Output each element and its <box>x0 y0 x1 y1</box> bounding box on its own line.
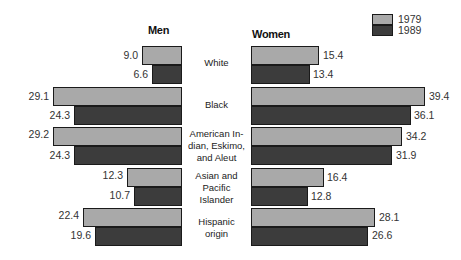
value-men-white-1979: 9.0 <box>123 46 138 65</box>
category-label-hispanic: Hispanicorigin <box>182 216 251 240</box>
bar-men-hispanic-1989 <box>95 227 182 246</box>
value-men-american-indian-1979: 29.2 <box>29 125 49 144</box>
value-men-black-1989: 24.3 <box>50 106 70 125</box>
women-header: Women <box>252 28 290 40</box>
legend-swatch-1979 <box>372 14 393 25</box>
bar-women-black-1979 <box>251 87 425 106</box>
category-label-asian: Asian andPacificIslander <box>182 170 251 206</box>
value-women-american-indian-1989: 31.9 <box>396 146 416 165</box>
value-women-white-1979: 15.4 <box>323 46 343 65</box>
value-men-asian-1979: 12.3 <box>103 166 123 185</box>
bar-men-hispanic-1979 <box>83 208 182 227</box>
value-women-hispanic-1979: 28.1 <box>379 208 399 227</box>
value-women-hispanic-1989: 26.6 <box>372 226 392 245</box>
bar-men-asian-1989 <box>134 187 182 206</box>
category-label-black: Black <box>182 99 251 111</box>
bar-men-american-indian-1979 <box>53 127 182 146</box>
bar-women-white-1979 <box>251 46 319 65</box>
value-women-white-1989: 13.4 <box>313 65 333 84</box>
bar-women-white-1989 <box>251 65 310 84</box>
bar-women-american-indian-1979 <box>251 127 402 146</box>
value-women-asian-1989: 12.8 <box>311 187 331 206</box>
value-women-asian-1979: 16.4 <box>327 168 347 187</box>
bar-men-asian-1979 <box>127 168 182 187</box>
men-header: Men <box>148 24 169 36</box>
bar-women-hispanic-1989 <box>251 227 368 246</box>
bar-men-black-1989 <box>74 106 182 125</box>
bar-men-white-1989 <box>152 65 182 84</box>
bar-men-american-indian-1989 <box>74 146 182 165</box>
value-women-black-1989: 36.1 <box>414 106 434 125</box>
value-women-american-indian-1979: 34.2 <box>406 127 426 146</box>
legend-swatch-1989 <box>372 25 393 36</box>
category-label-american-indian: American In-dian, Eskimo,and Aleut <box>182 128 251 164</box>
bar-women-black-1989 <box>251 106 411 125</box>
category-label-white: White <box>182 57 251 69</box>
value-men-hispanic-1989: 19.6 <box>71 226 91 245</box>
bar-women-asian-1989 <box>251 187 308 206</box>
bar-women-asian-1979 <box>251 168 324 187</box>
value-women-black-1979: 39.4 <box>429 87 449 106</box>
legend-label-1989: 1989 <box>398 25 421 36</box>
value-men-hispanic-1979: 22.4 <box>59 206 79 225</box>
value-men-white-1989: 6.6 <box>133 65 148 84</box>
bar-men-black-1979 <box>53 87 182 106</box>
value-men-american-indian-1989: 24.3 <box>50 146 70 165</box>
bar-women-american-indian-1989 <box>251 146 392 165</box>
bar-women-hispanic-1979 <box>251 208 375 227</box>
value-men-asian-1989: 10.7 <box>110 186 130 205</box>
value-men-black-1979: 29.1 <box>29 87 49 106</box>
bar-men-white-1979 <box>142 46 182 65</box>
